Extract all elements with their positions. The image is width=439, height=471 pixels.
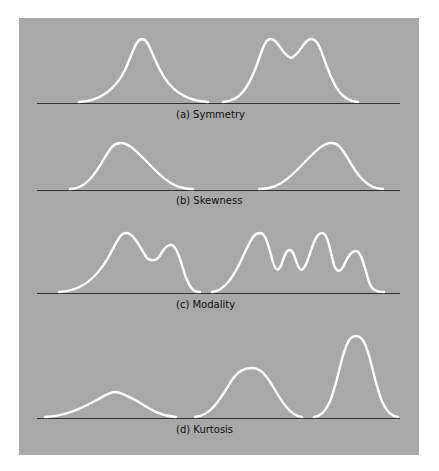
curve-left-skewed xyxy=(259,143,383,189)
curve-multimodal xyxy=(212,233,384,292)
curve-leptokurtic xyxy=(314,336,398,417)
curve-right-skewed xyxy=(70,143,193,189)
curve-unimodal-symmetric xyxy=(79,39,208,102)
curve-bimodal-symmetric xyxy=(223,39,358,102)
curve-platykurtic xyxy=(45,392,176,417)
caption-symmetry: (a) Symmetry xyxy=(176,109,245,120)
caption-skewness: (b) Skewness xyxy=(176,195,242,206)
curve-mesokurtic xyxy=(195,368,302,417)
curve-bimodal xyxy=(59,233,200,292)
caption-modality: (c) Modality xyxy=(176,299,235,310)
distribution-shapes-figure xyxy=(0,0,439,471)
caption-kurtosis: (d) Kurtosis xyxy=(176,424,233,435)
